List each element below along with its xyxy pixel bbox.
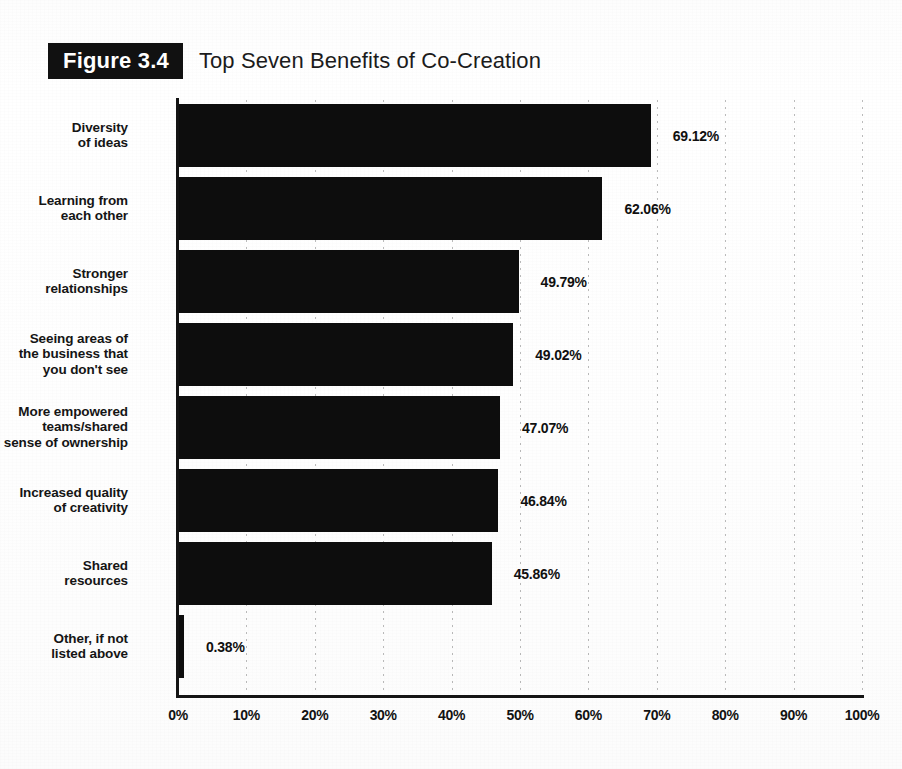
bar (178, 104, 651, 167)
bar-value-label: 0.38% (206, 639, 245, 655)
bar-chart: Diversityof ideas69.12%Learning fromeach… (0, 95, 902, 735)
category-label: More empoweredteams/sharedsense of owner… (0, 404, 128, 452)
x-axis-line (176, 695, 864, 698)
gridline (862, 100, 863, 695)
bar (178, 542, 492, 605)
category-label: Learning fromeach other (0, 193, 128, 225)
bar (178, 396, 500, 459)
x-tick-label: 50% (506, 707, 533, 723)
bar (178, 250, 519, 313)
x-tick-label: 80% (712, 707, 739, 723)
bar-value-label: 45.86% (514, 566, 560, 582)
x-tick-label: 60% (575, 707, 602, 723)
x-tick-label: 40% (438, 707, 465, 723)
category-label: Sharedresources (0, 558, 128, 590)
figure-number-badge: Figure 3.4 (48, 43, 183, 79)
bar-row: Strongerrelationships49.79% (178, 250, 862, 313)
x-tick-label: 30% (370, 707, 397, 723)
figure-header: Figure 3.4 Top Seven Benefits of Co-Crea… (48, 43, 541, 79)
bar-value-label: 46.84% (520, 493, 566, 509)
category-label: Diversityof ideas (0, 120, 128, 152)
bar-row: Learning fromeach other62.06% (178, 177, 862, 240)
bar-value-label: 49.02% (535, 347, 581, 363)
category-label: Strongerrelationships (0, 266, 128, 298)
bar (178, 323, 513, 386)
bar-row: More empoweredteams/sharedsense of owner… (178, 396, 862, 459)
bar-row: Seeing areas ofthe business thatyou don'… (178, 323, 862, 386)
bar (178, 469, 498, 532)
bar-value-label: 49.79% (541, 274, 587, 290)
category-label: Seeing areas ofthe business thatyou don'… (0, 331, 128, 379)
x-tick-label: 70% (643, 707, 670, 723)
bar (178, 177, 602, 240)
plot-area: Diversityof ideas69.12%Learning fromeach… (178, 100, 862, 695)
y-axis-line (176, 98, 179, 697)
x-tick-label: 100% (845, 707, 880, 723)
bar-row: Increased qualityof creativity46.84% (178, 469, 862, 532)
bar-value-label: 69.12% (673, 128, 719, 144)
bar-row: Diversityof ideas69.12% (178, 104, 862, 167)
x-axis-tick-labels: 0%10%20%30%40%50%60%70%80%90%100% (0, 707, 902, 737)
figure-page: Figure 3.4 Top Seven Benefits of Co-Crea… (0, 0, 902, 769)
x-tick-label: 0% (168, 707, 188, 723)
category-label: Increased qualityof creativity (0, 485, 128, 517)
bar-value-label: 47.07% (522, 420, 568, 436)
bar-value-label: 62.06% (624, 201, 670, 217)
x-tick-label: 10% (233, 707, 260, 723)
category-label: Other, if notlisted above (0, 631, 128, 663)
x-tick-label: 20% (301, 707, 328, 723)
bar-row: Sharedresources45.86% (178, 542, 862, 605)
figure-title: Top Seven Benefits of Co-Creation (199, 43, 541, 79)
bar-row: Other, if notlisted above0.38% (178, 615, 862, 678)
x-tick-label: 90% (780, 707, 807, 723)
